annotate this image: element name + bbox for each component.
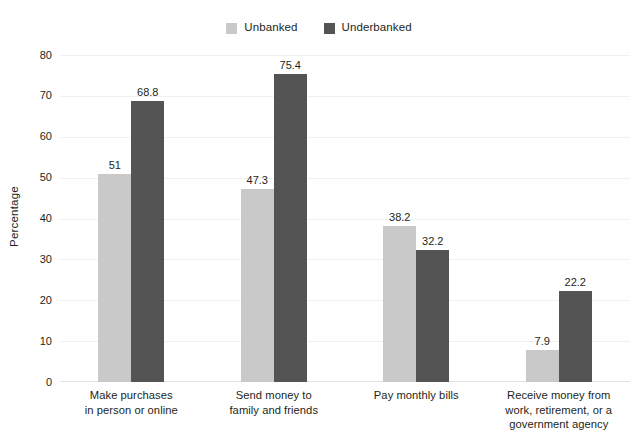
legend-item-unbanked[interactable]: Unbanked (226, 22, 297, 34)
bar-value-label: 32.2 (422, 236, 443, 247)
legend-label-unbanked: Unbanked (244, 22, 297, 34)
bar-underbanked[interactable]: 22.2 (559, 291, 592, 382)
x-axis-category-label: Receive money from work, retirement, or … (488, 388, 631, 433)
category-line: government agency (492, 417, 627, 432)
legend-item-underbanked[interactable]: Underbanked (324, 22, 412, 34)
bar-chart: Unbanked Underbanked Percentage 80706050… (0, 0, 638, 433)
bar-value-label: 38.2 (389, 212, 410, 223)
category-line: Receive money from (492, 388, 627, 403)
bar-value-label: 51 (109, 160, 121, 171)
bar-group: 47.3 75.4 (203, 55, 346, 382)
x-axis-category-label: Send money to family and friends (203, 388, 346, 433)
category-line: family and friends (207, 403, 342, 418)
chart-legend: Unbanked Underbanked (0, 19, 638, 37)
bar-underbanked[interactable]: 32.2 (416, 250, 449, 382)
y-axis-tick-label: 40 (12, 213, 52, 224)
bar-unbanked[interactable]: 47.3 (241, 189, 274, 382)
y-axis-tick-label: 60 (12, 131, 52, 142)
bar-groups: 51 68.8 47.3 75.4 (60, 55, 630, 382)
bar-pair: 7.9 22.2 (526, 55, 592, 382)
square-swatch-icon (324, 23, 335, 34)
x-axis-category-labels: Make purchases in person or online Send … (60, 388, 630, 433)
bar-group: 38.2 32.2 (345, 55, 488, 382)
bar-pair: 51 68.8 (98, 55, 164, 382)
bar-group: 51 68.8 (60, 55, 203, 382)
y-axis-tick-label: 10 (12, 336, 52, 347)
category-line: in person or online (64, 403, 199, 418)
bar-value-label: 68.8 (137, 87, 158, 98)
bar-group: 7.9 22.2 (488, 55, 631, 382)
category-line: Pay monthly bills (349, 388, 484, 403)
bar-underbanked[interactable]: 75.4 (274, 74, 307, 382)
y-axis-tick-label: 50 (12, 172, 52, 183)
bar-unbanked[interactable]: 38.2 (383, 226, 416, 382)
y-axis-tick-label: 20 (12, 295, 52, 306)
bar-pair: 38.2 32.2 (383, 55, 449, 382)
square-swatch-icon (226, 23, 237, 34)
bar-unbanked[interactable]: 51 (98, 174, 131, 382)
bar-underbanked[interactable]: 68.8 (131, 101, 164, 382)
bar-pair: 47.3 75.4 (241, 55, 307, 382)
category-line: Make purchases (64, 388, 199, 403)
bar-value-label: 7.9 (535, 336, 550, 347)
y-axis-tick-label: 70 (12, 90, 52, 101)
category-line: work, retirement, or a (492, 403, 627, 418)
legend-label-underbanked: Underbanked (342, 22, 412, 34)
bar-value-label: 75.4 (280, 60, 301, 71)
plot-area: 51 68.8 47.3 75.4 (60, 55, 630, 382)
x-axis-category-label: Make purchases in person or online (60, 388, 203, 433)
bar-value-label: 22.2 (565, 277, 586, 288)
bar-value-label: 47.3 (247, 175, 268, 186)
x-axis-category-label: Pay monthly bills (345, 388, 488, 433)
y-axis-tick-label: 0 (12, 377, 52, 388)
bar-unbanked[interactable]: 7.9 (526, 350, 559, 382)
category-line: Send money to (207, 388, 342, 403)
y-axis-tick-label: 80 (12, 50, 52, 61)
y-axis-tick-label: 30 (12, 254, 52, 265)
